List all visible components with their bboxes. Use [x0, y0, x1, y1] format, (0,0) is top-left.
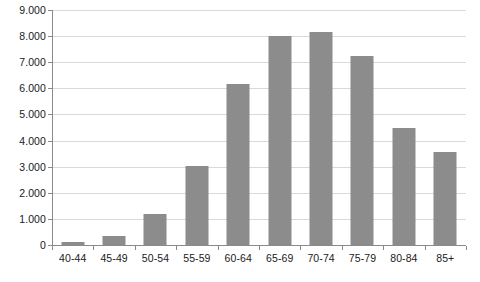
y-axis-tick — [48, 193, 52, 194]
bar — [392, 128, 415, 246]
y-axis-tick — [48, 88, 52, 89]
bar-slot — [52, 10, 93, 245]
x-axis-tick — [176, 246, 177, 250]
x-axis-tick — [93, 246, 94, 250]
bar-slot — [300, 10, 341, 245]
x-axis-tick-label: 65-69 — [259, 252, 300, 264]
x-axis-tick-label: 50-54 — [135, 252, 176, 264]
bar-slot — [93, 10, 134, 245]
bar-slot — [176, 10, 217, 245]
x-axis-tick-label: 85+ — [425, 252, 466, 264]
y-axis-tick-label: 4.000 — [0, 136, 46, 147]
bar — [434, 152, 457, 245]
y-axis-tick-label: 8.000 — [0, 31, 46, 42]
y-axis-tick — [48, 219, 52, 220]
x-axis-tick-label: 75-79 — [342, 252, 383, 264]
bar — [185, 166, 208, 245]
y-axis-tick — [48, 62, 52, 63]
bar — [103, 236, 126, 245]
y-axis-tick-label: 0 — [0, 240, 46, 251]
y-axis-tick — [48, 36, 52, 37]
y-axis-tick — [48, 245, 52, 246]
bar-slot — [135, 10, 176, 245]
y-axis-tick — [48, 141, 52, 142]
x-axis-tick — [342, 246, 343, 250]
y-axis-tick-label: 5.000 — [0, 109, 46, 120]
bar — [310, 32, 333, 245]
bar — [227, 84, 250, 245]
x-axis-tick — [135, 246, 136, 250]
x-axis-tick-label: 60-64 — [218, 252, 259, 264]
x-axis-tick — [300, 246, 301, 250]
bars-layer — [52, 10, 466, 245]
x-axis-tick-label: 70-74 — [300, 252, 341, 264]
bar-slot — [218, 10, 259, 245]
y-axis-tick-label: 9.000 — [0, 5, 46, 16]
x-axis-tick — [425, 246, 426, 250]
x-axis-tick-label: 45-49 — [93, 252, 134, 264]
x-axis-labels: 40-4445-4950-5455-5960-6465-6970-7475-79… — [52, 252, 466, 272]
y-axis-tick-label: 3.000 — [0, 162, 46, 173]
bar — [61, 242, 84, 245]
x-axis-tick-label: 40-44 — [52, 252, 93, 264]
x-axis-tick-label: 55-59 — [176, 252, 217, 264]
bar-slot — [425, 10, 466, 245]
y-axis-tick-label: 2.000 — [0, 188, 46, 199]
y-axis-tick — [48, 167, 52, 168]
x-axis-tick — [383, 246, 384, 250]
y-axis-labels: 01.0002.0003.0004.0005.0006.0007.0008.00… — [0, 0, 46, 282]
y-axis-tick — [48, 114, 52, 115]
y-axis-tick-label: 1.000 — [0, 214, 46, 225]
bar — [144, 214, 167, 245]
bar-slot — [342, 10, 383, 245]
y-axis-tick-label: 7.000 — [0, 57, 46, 68]
bar-chart: 01.0002.0003.0004.0005.0006.0007.0008.00… — [0, 0, 480, 282]
bar-slot — [383, 10, 424, 245]
y-axis-tick-label: 6.000 — [0, 83, 46, 94]
y-axis-tick — [48, 10, 52, 11]
x-axis-tick-label: 80-84 — [383, 252, 424, 264]
bar-slot — [259, 10, 300, 245]
bar — [268, 36, 291, 245]
x-axis-tick — [466, 246, 467, 250]
bar — [351, 56, 374, 245]
x-axis-tick — [259, 246, 260, 250]
x-axis-tick — [52, 246, 53, 250]
x-axis-tick — [218, 246, 219, 250]
